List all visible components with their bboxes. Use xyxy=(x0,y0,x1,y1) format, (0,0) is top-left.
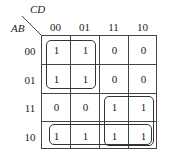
col-label: 11 xyxy=(99,21,128,33)
row-label: 01 xyxy=(22,74,38,86)
col-label: 01 xyxy=(70,21,99,33)
cell: 0 xyxy=(100,36,129,65)
col-variable-label: CD xyxy=(30,3,45,15)
row-label: 11 xyxy=(22,102,38,114)
col-label: 10 xyxy=(128,21,157,33)
group-loop xyxy=(49,124,152,145)
row-label: 10 xyxy=(22,131,38,143)
group-loop xyxy=(46,40,96,89)
cell: 0 xyxy=(71,93,100,122)
kmap-grid: 1 1 0 0 1 1 0 0 0 0 1 1 1 1 1 1 xyxy=(41,35,157,149)
row-label: 00 xyxy=(22,45,38,57)
cell: 0 xyxy=(129,65,158,94)
cell: 0 xyxy=(129,36,158,65)
cell: 0 xyxy=(100,65,129,94)
row-variable-label: AB xyxy=(11,22,24,34)
col-label: 00 xyxy=(41,21,70,33)
cell: 0 xyxy=(42,93,71,122)
